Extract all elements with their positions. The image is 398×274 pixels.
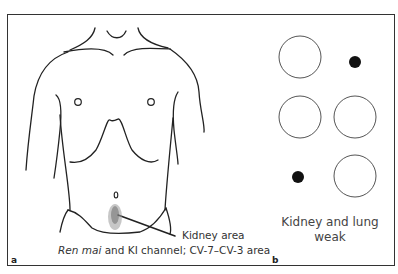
filled-dot-r3c1 xyxy=(292,171,304,183)
caption-line-2: weak xyxy=(280,230,380,245)
open-circle-r1c1 xyxy=(279,36,321,78)
caption-line-1: Kidney and lung xyxy=(280,215,380,230)
filled-dot-r1c2 xyxy=(349,56,361,68)
annotation-kidney-area: Kidney area xyxy=(182,229,245,241)
pulse-diagram xyxy=(279,36,376,197)
open-circle-r2c1 xyxy=(279,96,321,138)
annotation-ren-mai: Ren mai xyxy=(58,244,101,256)
panel-b-caption: Kidney and lung weak xyxy=(280,215,380,245)
annotation-channel-rest: and KI channel; CV-7–CV-3 area xyxy=(101,244,270,256)
annotation-channel: Ren mai and KI channel; CV-7–CV-3 area xyxy=(58,244,270,256)
panel-label-a: a xyxy=(11,255,17,265)
open-circle-r3c2 xyxy=(334,155,376,197)
panel-label-b: b xyxy=(272,255,278,265)
open-circle-r2c2 xyxy=(334,96,376,138)
